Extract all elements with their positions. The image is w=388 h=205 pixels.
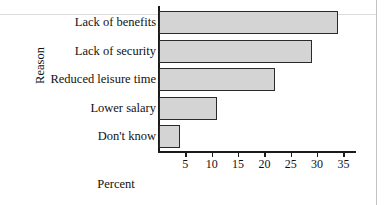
- y-axis-title: Reason: [33, 36, 48, 96]
- x-tick-label: 35: [337, 158, 349, 170]
- x-tick-label: 30: [311, 158, 323, 170]
- x-tick-label: 20: [258, 158, 270, 170]
- bar-chart-figure: Lack of benefitsLack of securityReduced …: [0, 0, 388, 205]
- x-axis-title-text: Percent: [97, 177, 134, 191]
- x-tick-label: 25: [285, 158, 297, 170]
- x-tick-label: 10: [206, 158, 218, 170]
- x-axis-ticks-container: 5101520253035: [0, 0, 388, 205]
- x-tick-label: 5: [182, 158, 188, 170]
- x-tick-label: 15: [232, 158, 244, 170]
- x-axis-title: Percent: [0, 177, 388, 192]
